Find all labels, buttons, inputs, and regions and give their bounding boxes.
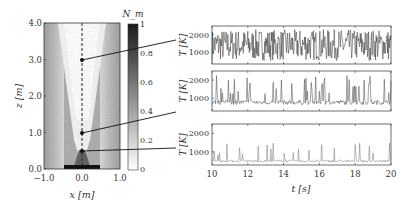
time-series-panel: 10002000T [K] [178,124,391,165]
xtick: 0.0 [75,173,89,183]
xtick: 1.0 [113,173,127,183]
xtick: 20 [386,169,397,179]
heatmap-panel: 4.0 3.0 2.0 1.0 0.0 −1.0 0.0 1.0 x [m] z… [13,18,127,200]
ytick: 1000 [189,148,209,157]
time-series-panels: 10002000T [K]10002000T [K]10002000T [K] [178,26,391,165]
colorbar-label: N_m [122,9,144,20]
colorbar-tick: 0 [140,165,145,174]
figure: 4.0 3.0 2.0 1.0 0.0 −1.0 0.0 1.0 x [m] z… [0,0,403,206]
xtick: 12 [242,169,253,179]
xtick: 14 [278,169,289,179]
xtick: 18 [350,169,361,179]
burner-icon [64,165,100,169]
t-axis-label: t [s] [291,183,310,194]
ytick: 4.0 [28,18,42,28]
x-axis-label: x [m] [70,189,95,200]
time-series-panel: 10002000T [K] [178,26,391,64]
xtick: 10 [207,169,218,179]
ytick: 1000 [189,94,209,103]
colorbar-tick: 0.2 [140,136,153,145]
ytick: 2000 [189,129,209,138]
ytick: 1000 [189,48,209,57]
ytick: 3.0 [28,55,42,65]
xtick: 16 [314,169,325,179]
time-series-panel: 10002000T [K] [178,71,391,111]
ytick: 2.0 [28,91,42,101]
xtick: −1.0 [34,173,55,183]
colorbar-tick: 0.4 [140,107,153,116]
temperature-axis-label: T [K] [178,33,188,56]
ytick: 2000 [189,76,209,85]
temperature-trace [212,76,391,105]
ytick: 2000 [189,31,209,40]
temperature-trace [212,30,391,61]
temperature-trace [212,143,391,162]
colorbar-tick: 1 [140,20,145,29]
temperature-axis-label: T [K] [178,79,188,102]
colorbar-tick: 0.8 [140,49,153,58]
colorbar-tick: 0.6 [140,78,153,87]
temperature-axis-label: T [K] [178,133,188,156]
z-axis-label: z [m] [13,83,24,109]
ytick: 1.0 [28,128,42,138]
